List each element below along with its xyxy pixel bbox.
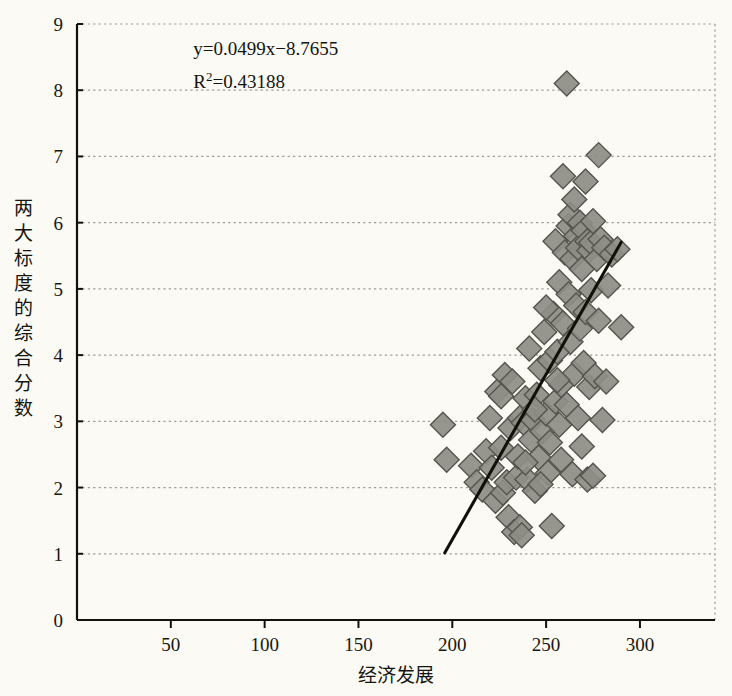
y-tick-label: 6	[54, 213, 64, 234]
y-tick-label: 0	[54, 610, 64, 631]
annotations-group: y=0.0499x−8.7655R2=0.43188	[193, 38, 338, 91]
x-tick-label: 200	[438, 634, 467, 655]
y-tick-label: 5	[54, 279, 64, 300]
data-point-marker	[586, 143, 611, 168]
y-tick-label: 4	[54, 345, 64, 366]
y-tick-label: 9	[54, 14, 64, 35]
data-point-marker	[434, 447, 459, 472]
x-tick-label: 300	[626, 634, 655, 655]
x-tick-label: 150	[344, 634, 373, 655]
data-point-marker	[569, 434, 594, 459]
data-point-marker	[551, 164, 576, 189]
data-point-marker	[554, 71, 579, 96]
y-tick-label: 3	[54, 411, 64, 432]
data-point-marker	[430, 412, 455, 437]
y-tick-label: 2	[54, 478, 64, 499]
r-squared-label: R2=0.43188	[193, 69, 285, 92]
x-tick-label: 50	[161, 634, 180, 655]
x-tick-label: 100	[250, 634, 279, 655]
data-point-marker	[590, 408, 615, 433]
plot-area: 012345678950100150200250300 y=0.0499x−8.…	[0, 0, 732, 696]
y-tick-label: 8	[54, 80, 64, 101]
data-point-marker	[539, 513, 564, 538]
regression-equation-label: y=0.0499x−8.7655	[193, 38, 338, 59]
x-tick-label: 250	[532, 634, 561, 655]
data-point-marker	[609, 315, 634, 340]
y-tick-label: 7	[54, 146, 64, 167]
y-axis-title: 两大标度的综合分数	[10, 196, 36, 421]
y-tick-label: 1	[54, 544, 64, 565]
x-axis-title: 经济发展	[358, 664, 434, 686]
data-points-group	[430, 71, 633, 548]
data-point-marker	[517, 336, 542, 361]
scatter-chart: 012345678950100150200250300 y=0.0499x−8.…	[0, 0, 732, 696]
